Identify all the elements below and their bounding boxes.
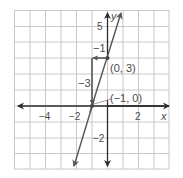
tick-y-5: 5 — [97, 21, 103, 32]
label-leader — [94, 99, 111, 104]
tick-x-neg4: −4 — [39, 111, 51, 122]
coordinate-plane: y x 5 −2 −4 −2 2 −1 −3 (0, 3) (−1, 0) — [0, 0, 183, 178]
rise-label: −3 — [78, 77, 91, 89]
tick-x-2: 2 — [135, 111, 141, 122]
y-axis-label: y — [110, 10, 118, 22]
x-axis-label: x — [160, 110, 167, 122]
point-label-0-3: (0, 3) — [110, 62, 136, 74]
tick-y-neg2: −2 — [93, 133, 105, 144]
run-label: −1 — [93, 42, 106, 54]
point-label-neg1-0: (−1, 0) — [110, 92, 142, 104]
point-0-3 — [106, 56, 110, 60]
tick-x-neg2: −2 — [69, 111, 81, 122]
point-neg1-0 — [90, 104, 94, 108]
